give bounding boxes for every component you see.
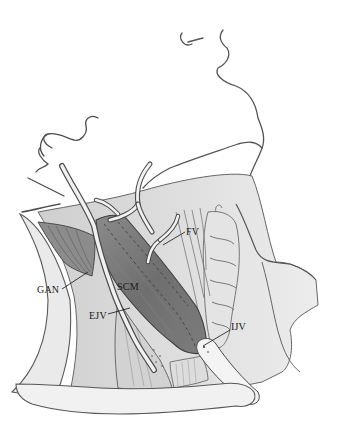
label-scm: SCM bbox=[117, 282, 139, 292]
label-ijv: IJV bbox=[231, 322, 246, 332]
label-gan: GAN bbox=[37, 285, 59, 295]
neck-anatomy-illustration bbox=[0, 0, 338, 433]
label-ejv: EJV bbox=[89, 311, 107, 321]
label-fv: FV bbox=[186, 227, 199, 237]
